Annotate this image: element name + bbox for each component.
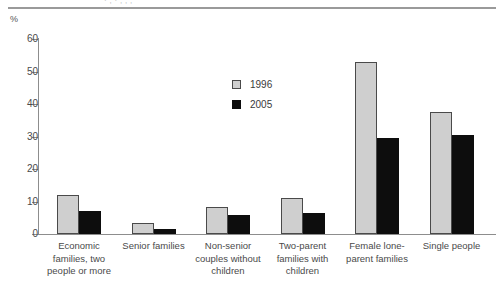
category-label-line: families, two	[31, 253, 127, 266]
category-label: Single people	[404, 240, 500, 253]
category-label-line: children	[255, 265, 351, 278]
bar-2005-1	[154, 229, 176, 234]
bar-1996-0	[57, 195, 79, 234]
y-axis-tick-label: 50	[12, 67, 38, 77]
y-axis-tick-label: 10	[12, 197, 38, 207]
y-axis-tick-label: 60	[12, 34, 38, 44]
legend-item-2005: 2005	[232, 96, 272, 112]
y-axis-unit-label: %	[10, 14, 18, 24]
bar-group	[430, 39, 474, 234]
y-axis-tick-label: 0	[12, 229, 38, 239]
bar-group	[206, 39, 250, 234]
bar-1996-3	[281, 198, 303, 234]
y-axis-line	[38, 38, 39, 235]
chart-figure: · , · , , , % 0102030405060 Economicfami…	[0, 0, 502, 301]
bar-group	[355, 39, 399, 234]
bar-1996-5	[430, 112, 452, 234]
header-rule	[8, 7, 496, 9]
y-axis-tick-label: 30	[12, 132, 38, 142]
cut-off-title-fragment: · , · , , ,	[104, 0, 133, 4]
bar-2005-3	[303, 213, 325, 234]
y-axis-tick-label: 20	[12, 164, 38, 174]
bar-2005-4	[377, 138, 399, 234]
legend-swatch-1996	[232, 80, 241, 89]
y-axis-tick-label: 40	[12, 99, 38, 109]
x-axis-line	[38, 234, 496, 235]
bar-2005-2	[228, 215, 250, 235]
bar-1996-4	[355, 62, 377, 234]
bar-group	[132, 39, 176, 234]
bar-1996-1	[132, 223, 154, 234]
legend-item-1996: 1996	[232, 76, 272, 92]
category-label-line: people or more	[31, 265, 127, 278]
bar-1996-2	[206, 207, 228, 234]
bar-2005-5	[452, 135, 474, 234]
legend-label-2005: 2005	[250, 99, 272, 110]
category-label-line: Single people	[404, 240, 500, 253]
category-label-line: parent families	[329, 253, 425, 266]
bar-2005-0	[79, 211, 101, 234]
chart-legend: 1996 2005	[232, 76, 272, 116]
legend-swatch-2005	[232, 100, 241, 109]
legend-label-1996: 1996	[250, 79, 272, 90]
bar-group	[281, 39, 325, 234]
bar-group	[57, 39, 101, 234]
